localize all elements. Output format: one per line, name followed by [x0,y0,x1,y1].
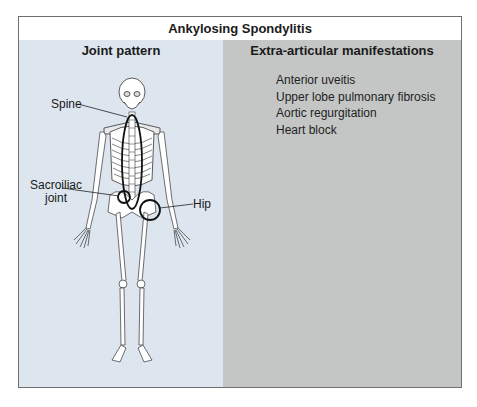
label-sacroiliac: Sacroiliac joint [30,179,82,205]
label-spine: Spine [51,98,82,111]
label-hip: Hip [193,198,211,211]
label-sacroiliac-line2: joint [30,192,82,205]
